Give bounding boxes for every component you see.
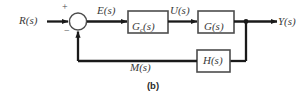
plant-name: G xyxy=(204,20,212,32)
sensor-name: H xyxy=(203,54,211,66)
label-error-signal: E(s) xyxy=(97,5,115,16)
figure-caption: (b) xyxy=(0,80,306,91)
compensator-subscript: c xyxy=(140,26,143,34)
compensator-name: G xyxy=(132,20,140,32)
label-block-sensor: H(s) xyxy=(203,55,223,66)
summing-junction xyxy=(69,13,86,30)
label-input-signal: R(s) xyxy=(19,15,37,26)
plant-arg: (s) xyxy=(212,20,224,32)
label-block-plant: G(s) xyxy=(204,21,224,32)
label-control-signal: U(s) xyxy=(170,5,190,16)
summing-junction-minus-sign: − xyxy=(64,26,70,36)
label-block-compensator: Gc(s) xyxy=(132,21,155,32)
compensator-arg: (s) xyxy=(143,20,155,32)
label-feedback-signal: M(s) xyxy=(130,62,151,73)
block-diagram-figure: R(s) E(s) U(s) Y(s) M(s) Gc(s) G(s) H(s)… xyxy=(0,0,306,100)
label-output-signal: Y(s) xyxy=(278,16,296,27)
summing-junction-plus-sign: + xyxy=(62,2,68,12)
sensor-arg: (s) xyxy=(211,54,223,66)
